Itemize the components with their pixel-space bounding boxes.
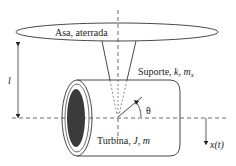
support-label: Suporte, k, mx: [138, 66, 195, 79]
length-label: l: [8, 75, 11, 86]
angle-label: θ: [146, 105, 151, 116]
wing-ellipse: [16, 23, 218, 41]
displacement-label: x(t): [209, 139, 225, 151]
support-right-edge: [127, 41, 136, 80]
turbine-label: Turbina, J, m: [97, 135, 150, 146]
wing-label: Asa, aterrada: [55, 27, 108, 38]
turbine-diagram: Asa, aterrada Suporte, k, mx l θ Turbina…: [0, 0, 236, 166]
support-left-edge: [102, 41, 110, 80]
